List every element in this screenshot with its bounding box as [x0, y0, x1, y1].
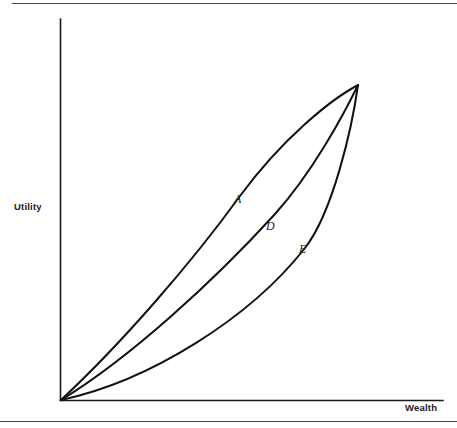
curve-label-e: E [299, 242, 306, 257]
plot-area [0, 0, 457, 428]
utility-curve-a [61, 85, 358, 400]
curve-label-d: D [266, 219, 275, 234]
y-axis-title: Utility [14, 201, 42, 212]
chart-figure: Utility Wealth A D E [0, 0, 457, 428]
utility-curve-d [61, 85, 358, 400]
curve-label-a: A [234, 192, 241, 207]
utility-curve-e [61, 85, 358, 400]
x-axis-title: Wealth [405, 402, 437, 413]
